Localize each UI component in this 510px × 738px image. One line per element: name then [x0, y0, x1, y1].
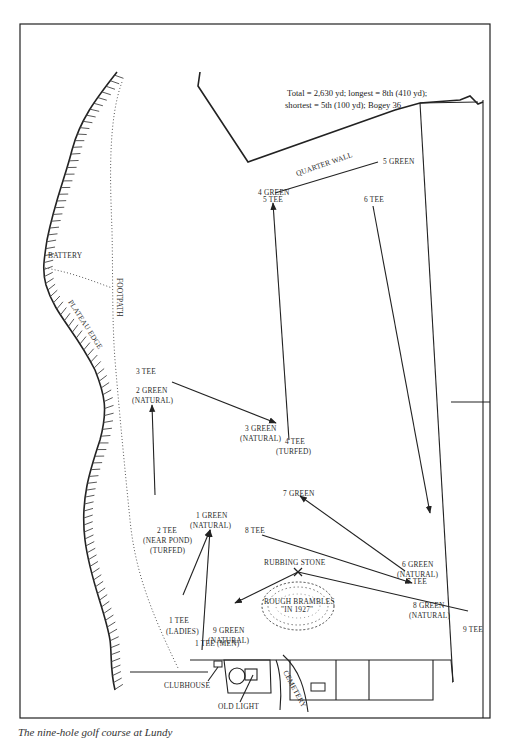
- tee-3: 3 TEE: [136, 367, 156, 376]
- green-7: 7 GREEN: [283, 489, 315, 498]
- tee-7: 7 TEE: [407, 577, 427, 586]
- figure-caption: The nine-hole golf course at Lundy: [18, 726, 172, 738]
- green-2: 2 GREEN(NATURAL): [132, 386, 174, 405]
- green-3: 3 GREEN(NATURAL): [240, 424, 282, 443]
- clubhouse-label: CLUBHOUSE: [164, 681, 210, 690]
- tee-1-ladies: 1 TEE(LADIES): [166, 616, 199, 636]
- tee-2: 2 TEE(NEAR POND)(TURFED): [143, 526, 193, 555]
- green-1: 1 GREEN(NATURAL): [190, 511, 232, 530]
- battery-path: [45, 268, 112, 288]
- rubbing-stone-marker: [294, 568, 302, 576]
- plateau-edge: [44, 72, 124, 690]
- battery-label: BATTERY: [48, 251, 83, 260]
- old-light-label: OLD LIGHT: [218, 702, 259, 711]
- tee-9: 9 TEE: [463, 625, 483, 634]
- rubbing-stone-label: RUBBING STONE: [264, 558, 326, 567]
- footpath-label: FOOTPATH: [115, 278, 124, 317]
- green-5: 5 GREEN: [383, 157, 415, 166]
- cemetery-label: CEMETERY: [281, 669, 308, 710]
- tee-6: 6 TEE: [364, 195, 384, 204]
- course-stats-line1: Total = 2,630 yd; longest = 8th (410 yd)…: [287, 88, 427, 98]
- rough-brambles-year: "IN 1927": [281, 605, 313, 614]
- tee-8: 8 TEE: [245, 526, 265, 535]
- green-9: 9 GREEN(NATURAL): [208, 626, 250, 645]
- green-8: 8 GREEN(NATURAL): [409, 601, 451, 620]
- course-stats-line2: shortest = 5th (100 yd); Bogey 36: [285, 100, 402, 110]
- tee-4: 4 TEE(TURFED): [276, 437, 312, 456]
- quarter-wall-label: QUARTER WALL: [295, 150, 354, 178]
- plateau-edge-label: PLATEAU EDGE: [66, 298, 105, 351]
- tee-5: 5 TEE: [263, 195, 283, 204]
